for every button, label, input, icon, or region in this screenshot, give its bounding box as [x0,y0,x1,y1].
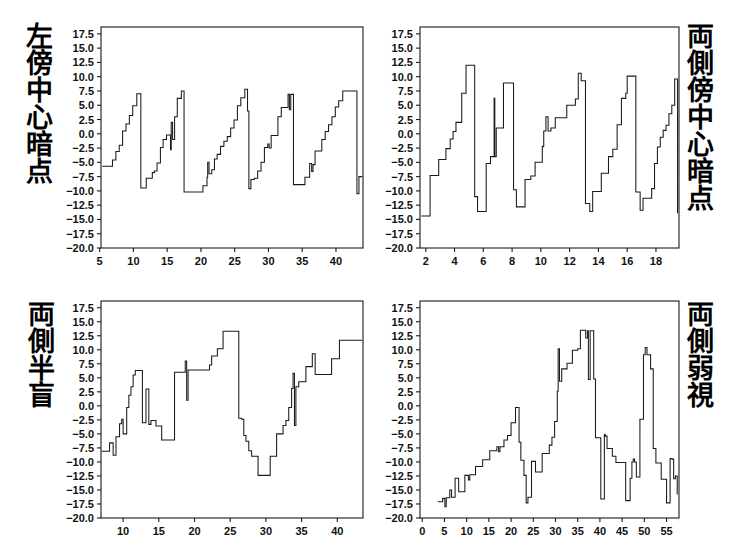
y-axis-tick-label: 7.5 [398,358,413,370]
y-axis-tick-label: −17.5 [385,498,413,510]
x-axis-tick-label: 25 [527,525,539,537]
y-axis-tick-label: 5.0 [398,99,413,111]
x-axis-tick-label: 16 [621,255,633,267]
x-axis-tick-label: 55 [660,525,672,537]
y-axis-tick-label: −12.5 [385,470,413,482]
data-trace [102,331,363,475]
y-axis-tick-label: 7.5 [79,85,94,97]
y-axis-tick-label: 10.0 [392,71,413,83]
x-axis-tick-label: 20 [195,255,207,267]
y-axis-tick-label: 7.5 [398,85,413,97]
y-axis-tick-label: −20.0 [385,512,413,524]
y-axis-tick-label: −17.5 [385,228,413,240]
y-axis-tick-label: −15.0 [385,484,413,496]
y-axis-tick-label: −15.0 [385,213,413,225]
panel-bottom-right: 両側弱視 −20.0−17.5−15.0−12.5−10.0−7.5−5.0−2… [372,278,745,556]
x-axis-tick-label: 12 [564,255,576,267]
panel-bottom-left: 両側半盲 −20.0−17.5−15.0−12.5−10.0−7.5−5.0−2… [0,278,373,556]
y-axis-tick-label: −2.5 [391,142,413,154]
y-axis-tick-label: −7.5 [391,171,413,183]
x-axis-tick-label: 30 [262,255,274,267]
y-axis-tick-label: 15.0 [392,42,413,54]
x-axis-tick-label: 6 [480,255,486,267]
x-axis-tick-label: 50 [638,525,650,537]
panel-title-top-left: 左傍中心暗点 [24,22,52,250]
data-trace [421,65,677,216]
y-axis-tick-label: −12.5 [385,199,413,211]
x-axis-tick-label: 40 [594,525,606,537]
panel-top-right: 両側傍中心暗点 −20.0−17.5−15.0−12.5−10.0−7.5−5.… [372,0,745,278]
x-axis-tick-label: 20 [188,525,200,537]
y-axis-tick-label: −10.0 [385,456,413,468]
y-axis-tick-label: −10.0 [385,185,413,197]
plot-frame [420,27,679,248]
y-axis-tick-label: −15.0 [66,484,94,496]
y-axis-tick-label: −2.5 [72,414,94,426]
y-axis-tick-label: 5.0 [398,372,413,384]
y-axis-tick-label: 0.0 [398,400,413,412]
y-axis-tick-label: −20.0 [66,242,94,254]
y-axis-tick-label: 0.0 [79,128,94,140]
y-axis-tick-label: −2.5 [391,414,413,426]
y-axis-tick-label: −17.5 [66,498,94,510]
y-axis-tick-label: 17.5 [73,28,94,40]
y-axis-tick-label: −5.0 [391,156,413,168]
plot-frame [101,301,363,518]
y-axis-tick-label: −12.5 [66,470,94,482]
x-axis-tick-label: 30 [260,525,272,537]
y-axis-tick-label: 5.0 [79,99,94,111]
x-axis-tick-label: 30 [549,525,561,537]
y-axis-tick-label: −2.5 [72,142,94,154]
x-axis-tick-label: 35 [295,525,307,537]
x-axis-tick-label: 40 [331,525,343,537]
y-axis-tick-label: −15.0 [66,213,94,225]
y-axis-tick-label: −10.0 [66,185,94,197]
y-axis-tick-label: −20.0 [66,512,94,524]
y-axis-tick-label: −12.5 [66,199,94,211]
panel-title-top-right: 両側傍中心暗点 [685,22,713,274]
y-axis-tick-label: −17.5 [66,228,94,240]
y-axis-tick-label: 10.0 [392,344,413,356]
x-axis-tick-label: 5 [97,255,103,267]
y-axis-tick-label: 15.0 [73,316,94,328]
x-axis-tick-label: 35 [296,255,308,267]
y-axis-tick-label: 2.5 [398,386,413,398]
y-axis-tick-label: 17.5 [392,302,413,314]
y-axis-tick-label: 12.5 [392,330,413,342]
x-axis-tick-label: 10 [117,525,129,537]
x-axis-tick-label: 25 [224,525,236,537]
x-axis-tick-label: 2 [423,255,429,267]
y-axis-tick-label: 2.5 [79,386,94,398]
x-axis-tick-label: 20 [505,525,517,537]
x-axis-tick-label: 15 [483,525,495,537]
y-axis-tick-label: −5.0 [391,428,413,440]
y-axis-tick-label: 2.5 [79,114,94,126]
x-axis-tick-label: 25 [229,255,241,267]
y-axis-tick-label: 15.0 [392,316,413,328]
y-axis-tick-label: −7.5 [72,171,94,183]
x-axis-tick-label: 15 [161,255,173,267]
x-axis-tick-label: 10 [461,525,473,537]
y-axis-tick-label: 17.5 [73,302,94,314]
y-axis-tick-label: −10.0 [66,456,94,468]
x-axis-tick-label: 10 [127,255,139,267]
x-axis-tick-label: 8 [509,255,515,267]
y-axis-tick-label: −20.0 [385,242,413,254]
x-axis-tick-label: 14 [592,255,605,267]
x-axis-tick-label: 15 [153,525,165,537]
x-axis-tick-label: 10 [535,255,547,267]
y-axis-tick-label: −5.0 [72,156,94,168]
y-axis-tick-label: −7.5 [391,442,413,454]
panel-title-bottom-left: 両側半盲 [26,300,54,455]
x-axis-tick-label: 18 [650,255,662,267]
data-trace [438,330,677,507]
y-axis-tick-label: 12.5 [392,56,413,68]
panel-title-bottom-right: 両側弱視 [685,300,713,455]
x-axis-tick-label: 5 [441,525,447,537]
y-axis-tick-label: 12.5 [73,56,94,68]
x-axis-tick-label: 45 [616,525,628,537]
y-axis-tick-label: −7.5 [72,442,94,454]
x-axis-tick-label: 4 [451,255,458,267]
y-axis-tick-label: 17.5 [392,28,413,40]
y-axis-tick-label: 2.5 [398,114,413,126]
